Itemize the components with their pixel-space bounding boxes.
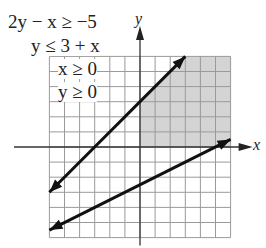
- inequality-3: x ≥ 0: [58, 59, 97, 79]
- inequality-4: y ≥ 0: [58, 82, 97, 102]
- inequality-1: 2y − x ≥ −5: [8, 12, 97, 32]
- x-axis-label: x: [253, 136, 260, 154]
- y-axis-label: y: [135, 10, 142, 28]
- inequality-2: y ≤ 3 + x: [31, 36, 100, 56]
